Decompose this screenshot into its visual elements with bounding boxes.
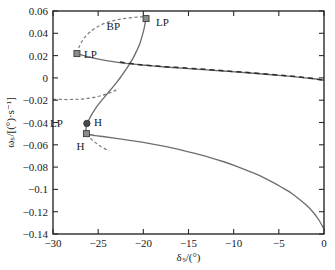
bifurcation-diagram: −30−25−20−15−10−500.060.040.020−0.02−0.0… (0, 0, 335, 270)
x-tick-label: −10 (225, 237, 243, 249)
y-tick-label: −0.08 (23, 161, 49, 173)
label-h-upper: H (94, 116, 102, 128)
y-tick-label: −0.12 (23, 206, 48, 218)
x-tick-label: −5 (273, 237, 285, 249)
y-tick-label: −0.06 (23, 139, 49, 151)
marker-lp-upper-right (143, 16, 149, 22)
y-axis-title: ωₛ/[(°)·s⁻¹] (4, 97, 17, 148)
marker-h-lower (83, 131, 89, 137)
y-tick-label: 0 (43, 72, 49, 84)
x-tick-label: −15 (180, 237, 198, 249)
x-tick-label: 0 (321, 237, 327, 249)
x-axis-title: δₛ/(°) (177, 251, 201, 264)
y-tick-label: −0.04 (23, 117, 49, 129)
y-tick-label: 0.04 (29, 27, 49, 39)
y-tick-label: 0.06 (29, 5, 49, 17)
marker-lp-left (74, 51, 80, 57)
figure-background (0, 0, 335, 270)
figure-container: −30−25−20−15−10−500.060.040.020−0.02−0.0… (0, 0, 335, 270)
label-h-lower: H (76, 140, 84, 152)
label-lp-upper-right: LP (156, 16, 169, 28)
marker-h-upper (84, 120, 90, 126)
label-bp-upper: BP (107, 20, 120, 32)
x-tick-label: −20 (135, 237, 153, 249)
x-tick-label: −25 (90, 237, 108, 249)
y-tick-label: −0.14 (23, 228, 49, 240)
label-lp-lower: LP (50, 117, 63, 129)
label-lp-left: LP (84, 48, 97, 60)
y-tick-label: −0.1 (28, 183, 48, 195)
y-tick-label: −0.02 (23, 94, 48, 106)
y-tick-label: 0.02 (29, 50, 48, 62)
